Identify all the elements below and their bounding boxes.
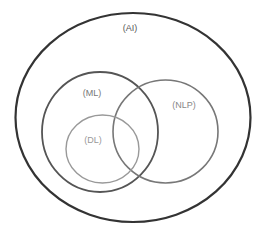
- set-nlp-ellipse: [113, 80, 218, 183]
- set-dl-ellipse: [66, 115, 139, 183]
- venn-diagram-svg: (AI)(ML)(NLP)(DL): [0, 0, 262, 237]
- venn-diagram: (AI)(ML)(NLP)(DL): [0, 0, 262, 237]
- set-ml-label: (ML): [83, 88, 102, 98]
- set-ai-ellipse: [16, 13, 251, 222]
- set-ai-label: (AI): [123, 23, 138, 33]
- set-nlp-label: (NLP): [172, 100, 196, 110]
- set-dl-label: (DL): [84, 135, 102, 145]
